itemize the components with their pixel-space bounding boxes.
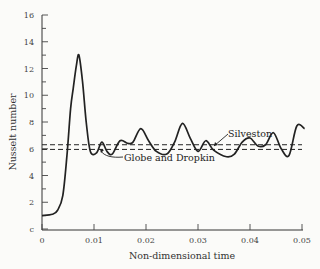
y-tick-label: c <box>30 225 35 234</box>
silveston-label: Silveston <box>228 128 272 139</box>
y-tick-label: 8 <box>29 118 34 127</box>
annotations: SilvestonGlobe and Dropkin <box>100 128 272 163</box>
y-tick-label: 12 <box>24 65 34 74</box>
y-tick-label: 2 <box>29 198 34 207</box>
y-axis-ticks: c246810121416 <box>24 11 48 234</box>
x-tick-label: 0.02 <box>137 236 155 245</box>
x-tick-label: 0.05 <box>293 236 311 245</box>
x-tick-label: 0 <box>39 236 44 245</box>
x-axis-title: Non-dimensional time <box>129 250 236 261</box>
y-tick-label: 16 <box>24 11 34 20</box>
x-tick-label: 0.01 <box>85 236 103 245</box>
nusselt-chart: c246810121416 00.010.020.030.040.05 Silv… <box>0 0 320 269</box>
y-axis-title: Nusselt number <box>7 93 18 171</box>
x-tick-label: 0.04 <box>241 236 259 245</box>
globe-dropkin-label: Globe and Dropkin <box>124 152 215 163</box>
x-axis-ticks: 00.010.020.030.040.05 <box>39 224 310 245</box>
y-tick-label: 14 <box>24 38 34 47</box>
x-tick-label: 0.03 <box>189 236 207 245</box>
y-tick-label: 6 <box>29 145 34 154</box>
axes <box>42 15 303 230</box>
y-tick-label: 10 <box>24 91 34 100</box>
y-tick-label: 4 <box>29 172 34 181</box>
